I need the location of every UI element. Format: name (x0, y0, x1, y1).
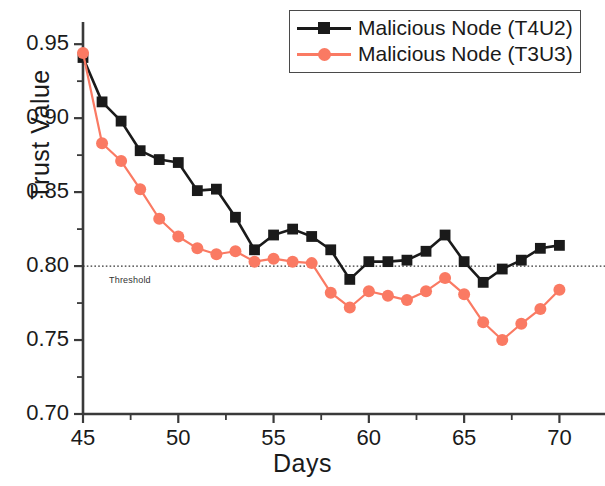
data-point-marker (402, 255, 413, 266)
data-point-marker (535, 243, 546, 254)
data-point-marker (325, 287, 337, 299)
data-point-marker (192, 185, 203, 196)
legend: Malicious Node (T4U2) Malicious Node (T3… (289, 10, 581, 73)
threshold-annotation-label: Threshold (109, 275, 151, 285)
data-point-marker (363, 285, 375, 297)
data-point-marker (287, 256, 299, 268)
x-tick-label: 65 (424, 425, 504, 451)
data-point-marker (458, 288, 470, 300)
data-point-marker (497, 264, 508, 275)
data-point-marker (344, 274, 355, 285)
x-tick-label: 55 (234, 425, 314, 451)
data-point-marker (249, 244, 260, 255)
data-point-marker (477, 316, 489, 328)
data-point-marker (496, 334, 508, 346)
data-point-marker (268, 230, 279, 241)
data-point-marker (268, 253, 280, 265)
data-point-marker (440, 230, 451, 241)
data-point-marker (287, 224, 298, 235)
x-tick-label: 45 (43, 425, 123, 451)
y-tick-label: 0.90 (0, 104, 69, 130)
data-point-marker (554, 240, 565, 251)
legend-swatch-square-icon (297, 19, 351, 37)
data-point-marker (77, 47, 89, 59)
data-point-marker (383, 256, 394, 267)
data-point-marker (96, 137, 108, 149)
data-point-marker (459, 256, 470, 267)
data-point-marker (249, 256, 261, 268)
data-point-marker (421, 246, 432, 257)
legend-entry-t3u3: Malicious Node (T3U3) (297, 41, 573, 67)
series-t4u2 (78, 52, 565, 288)
x-tick-label: 60 (329, 425, 409, 451)
data-point-marker (382, 290, 394, 302)
data-point-marker (115, 155, 127, 167)
data-point-marker (553, 284, 565, 296)
data-point-marker (306, 257, 318, 269)
y-tick-label: 0.85 (0, 178, 69, 204)
legend-swatch-circle-icon (297, 45, 351, 63)
data-point-marker (325, 244, 336, 255)
data-point-marker (515, 318, 527, 330)
data-point-marker (478, 277, 489, 288)
series-t3u3 (77, 47, 565, 346)
y-tick-label: 0.95 (0, 30, 69, 56)
data-point-marker (363, 256, 374, 267)
data-point-marker (116, 116, 127, 127)
x-tick-label: 70 (519, 425, 599, 451)
data-point-marker (306, 231, 317, 242)
y-tick-label: 0.70 (0, 400, 69, 426)
data-point-marker (210, 248, 222, 260)
y-tick-label: 0.75 (0, 326, 69, 352)
data-point-marker (230, 212, 241, 223)
data-point-marker (97, 96, 108, 107)
data-point-marker (439, 272, 451, 284)
data-point-marker (534, 303, 546, 315)
data-point-marker (229, 245, 241, 257)
data-point-marker (516, 255, 527, 266)
series-line (83, 58, 559, 283)
trust-value-line-chart: Trust Value Days 0.700.750.800.850.900.9… (0, 0, 605, 486)
data-point-marker (401, 294, 413, 306)
series-line (83, 53, 559, 340)
data-point-marker (191, 242, 203, 254)
data-point-marker (211, 184, 222, 195)
y-axis-title: Trust Value (26, 25, 55, 245)
data-point-marker (172, 230, 184, 242)
data-point-marker (173, 157, 184, 168)
data-point-marker (154, 154, 165, 165)
legend-label-t3u3: Malicious Node (T3U3) (358, 42, 573, 66)
data-point-marker (344, 301, 356, 313)
x-axis-title: Days (0, 449, 605, 478)
x-tick-label: 50 (138, 425, 218, 451)
data-point-marker (134, 183, 146, 195)
legend-entry-t4u2: Malicious Node (T4U2) (297, 15, 573, 41)
data-point-marker (153, 213, 165, 225)
data-point-marker (420, 285, 432, 297)
legend-label-t4u2: Malicious Node (T4U2) (358, 16, 573, 40)
data-point-marker (135, 145, 146, 156)
y-tick-label: 0.80 (0, 252, 69, 278)
